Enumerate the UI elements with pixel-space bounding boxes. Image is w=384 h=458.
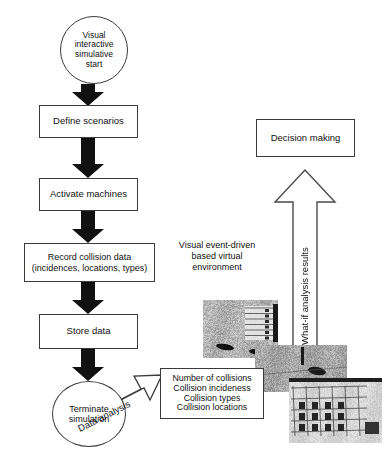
arrow-record-to-store xyxy=(72,282,104,314)
label-what-if-analysis-results: What-if analysis results xyxy=(299,247,310,345)
arrow-store-to-terminate xyxy=(72,349,104,381)
label-virtual-environment: Visual event-driven based virtual enviro… xyxy=(164,240,270,272)
node-activate-machines xyxy=(39,178,138,211)
node-start xyxy=(60,16,128,84)
flowchart-diagram: Visual interactive simulative start Defi… xyxy=(0,0,384,458)
arrow-activate-to-record xyxy=(72,211,104,243)
node-results xyxy=(160,368,264,419)
node-store-data xyxy=(39,314,138,349)
arrow-define-to-activate xyxy=(72,138,104,178)
arrow-start-to-define xyxy=(72,84,104,106)
node-record-collision-data xyxy=(24,243,155,282)
node-define-scenarios xyxy=(39,105,138,138)
node-decision-making xyxy=(256,119,355,157)
photo-bottom-right xyxy=(289,378,382,443)
